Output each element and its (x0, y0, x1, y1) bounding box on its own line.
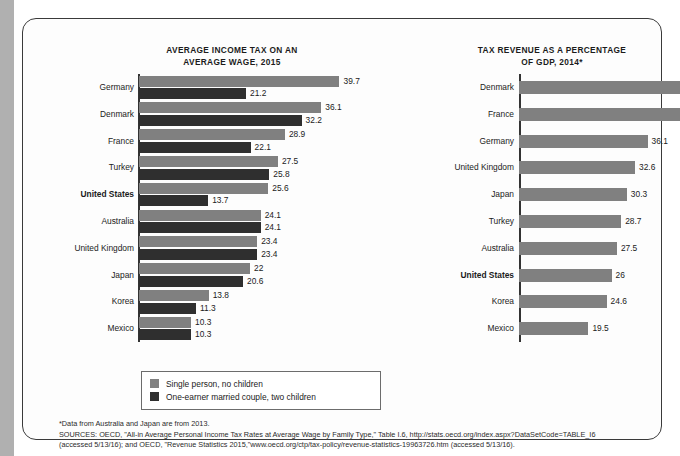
bar-value-label: 13.8 (213, 290, 229, 300)
bar-group: Turkey28.7 (427, 215, 677, 228)
bar-value-label: 26 (616, 270, 625, 280)
bar (519, 108, 680, 121)
category-label-korea: Korea (112, 296, 134, 306)
category-label-united-states: United States (460, 270, 514, 280)
bar-group: United Kingdom23.423.4 (47, 236, 417, 260)
bar (519, 269, 612, 282)
legend-item: One-earner married couple, two children (150, 390, 372, 403)
bar (139, 195, 208, 206)
chart-legend: Single person, no children One-earner ma… (141, 371, 381, 410)
sources-line-2: (accessed 5/13/16); and OECD, "Revenue S… (59, 440, 669, 451)
bar-group: Australia24.124.1 (47, 210, 417, 234)
bar (519, 322, 588, 335)
bar-group: Denmark50.9 (427, 81, 677, 94)
bar-value-label: 10.3 (195, 317, 211, 327)
bar-value-label: 32.6 (639, 162, 655, 172)
bar-value-label: 13.7 (212, 195, 228, 205)
bar-value-label: 36.1 (325, 102, 341, 112)
bar-value-label: 28.7 (625, 216, 641, 226)
bar (139, 210, 261, 221)
bar-value-label: 27.5 (282, 156, 298, 166)
bar (519, 135, 648, 148)
bar-group: France45.2 (427, 108, 677, 121)
bar-value-label: 27.5 (621, 243, 637, 253)
bar (519, 295, 607, 308)
page-edge-shadow (0, 0, 14, 456)
category-label-germany: Germany (480, 136, 514, 146)
bar (139, 156, 278, 167)
bar (519, 242, 617, 255)
chart-tax-revenue-pct-gdp: TAX REVENUE AS A PERCENTAGE OF GDP, 2014… (427, 45, 677, 365)
bar-value-label: 24.1 (265, 222, 281, 232)
bar-group: Mexico10.310.3 (47, 317, 417, 341)
bar-value-label: 21.2 (250, 88, 266, 98)
bar-group: France28.922.1 (47, 129, 417, 153)
bar-group: United States26 (427, 269, 677, 282)
figure-page: AVERAGE INCOME TAX ON AN AVERAGE WAGE, 2… (0, 0, 680, 456)
category-label-france: France (488, 109, 514, 119)
bar-group: Germany39.721.2 (47, 76, 417, 100)
figure-notes: *Data from Australia and Japan are from … (59, 419, 669, 451)
chart-average-income-tax: AVERAGE INCOME TAX ON AN AVERAGE WAGE, 2… (47, 45, 417, 365)
category-label-japan: Japan (111, 270, 134, 280)
chart-title-average-income-tax: AVERAGE INCOME TAX ON AN AVERAGE WAGE, 2… (47, 45, 417, 68)
category-label-mexico: Mexico (487, 323, 514, 333)
bar (139, 317, 191, 328)
bar-group: United Kingdom32.6 (427, 161, 677, 174)
footnote-text: *Data from Australia and Japan are from … (59, 419, 669, 430)
bar (139, 236, 257, 247)
bar (139, 88, 246, 99)
bar-group: Australia27.5 (427, 242, 677, 255)
bar-value-label: 32.2 (306, 115, 322, 125)
bar-value-label: 30.3 (631, 189, 647, 199)
category-label-japan: Japan (491, 189, 514, 199)
bar-value-label: 10.3 (195, 329, 211, 339)
bar (519, 81, 680, 94)
category-label-united-states: United States (80, 189, 134, 199)
bar-group: United States25.613.7 (47, 183, 417, 207)
legend-label-single-person: Single person, no children (166, 379, 263, 389)
bar (519, 188, 627, 201)
bar (139, 222, 261, 233)
category-label-australia: Australia (481, 243, 514, 253)
category-label-united-kingdom: United Kingdom (74, 243, 134, 253)
bar (139, 249, 257, 260)
bar (139, 142, 251, 153)
bar-group: Japan30.3 (427, 188, 677, 201)
legend-label-married-couple: One-earner married couple, two children (166, 392, 316, 402)
category-label-mexico: Mexico (107, 323, 134, 333)
category-label-korea: Korea (492, 296, 514, 306)
bar-value-label: 24.1 (265, 210, 281, 220)
bar-group: Denmark36.132.2 (47, 102, 417, 126)
bar-group: Mexico19.5 (427, 322, 677, 335)
bar-value-label: 11.3 (200, 303, 216, 313)
bar-value-label: 25.6 (272, 183, 288, 193)
bar-value-label: 23.4 (261, 236, 277, 246)
bar-group: Korea13.811.3 (47, 290, 417, 314)
bar-value-label: 20.6 (247, 276, 263, 286)
category-label-turkey: Turkey (489, 216, 514, 226)
figure-frame: AVERAGE INCOME TAX ON AN AVERAGE WAGE, 2… (22, 18, 662, 440)
category-label-australia: Australia (101, 216, 134, 226)
chart-title-tax-revenue-pct-gdp: TAX REVENUE AS A PERCENTAGE OF GDP, 2014… (427, 45, 677, 68)
bar (139, 183, 268, 194)
bar-value-label: 25.8 (273, 169, 289, 179)
bar (139, 290, 209, 301)
bar-value-label: 28.9 (289, 129, 305, 139)
category-label-denmark: Denmark (480, 82, 514, 92)
legend-swatch-single-person (150, 379, 159, 388)
category-label-united-kingdom: United Kingdom (454, 162, 514, 172)
category-label-france: France (108, 136, 134, 146)
bar-value-label: 23.4 (261, 249, 277, 259)
bar-value-label: 24.6 (611, 296, 627, 306)
bar (139, 76, 339, 87)
bar-value-label: 22 (254, 263, 263, 273)
plot-area-average-income-tax: Germany39.721.2Denmark36.132.2France28.9… (47, 74, 417, 342)
bar-group: Turkey27.525.8 (47, 156, 417, 180)
legend-swatch-married-couple (150, 392, 159, 401)
legend-item: Single person, no children (150, 377, 372, 390)
bar (519, 161, 635, 174)
bar (139, 102, 321, 113)
bar (519, 215, 621, 228)
bar (139, 169, 269, 180)
